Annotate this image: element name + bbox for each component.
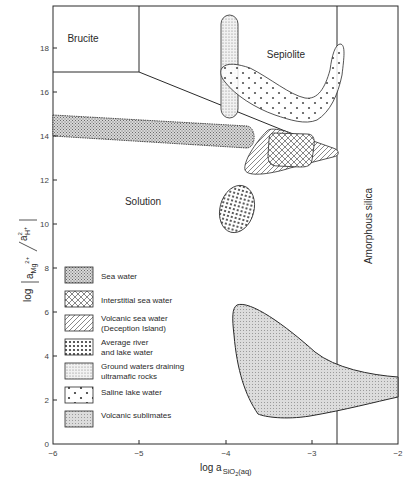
svg-text:Volcanic sublimates: Volcanic sublimates <box>101 411 171 420</box>
sea-water-region <box>53 115 254 148</box>
legend-item-interstitial-sea-water: Interstitial sea water <box>65 291 172 307</box>
interstitial-sea-water-swatch <box>65 291 93 307</box>
y-tick-14: 14 <box>40 132 49 141</box>
x-tick-neg3: −3 <box>307 449 317 458</box>
legend-item-average-river-lake-water: Average river and lake water <box>65 338 153 357</box>
volcanic-sea-water-swatch <box>65 315 93 331</box>
diagram-canvas: Brucite Sepiolite Solution Amorphous sil… <box>0 0 410 477</box>
y-tick-16: 16 <box>40 88 49 97</box>
y-axis-label: log aMg2+ a2H+ <box>17 220 39 302</box>
stability-diagram: Brucite Sepiolite Solution Amorphous sil… <box>0 0 410 477</box>
svg-text:Sea water: Sea water <box>101 272 137 281</box>
legend-item-sea-water: Sea water <box>65 267 137 283</box>
x-tick-neg5: −5 <box>134 449 144 458</box>
svg-text:Average river: Average river <box>101 338 149 347</box>
x-tick-neg6: −6 <box>48 449 58 458</box>
legend-item-volcanic-sea-water: Volcanic sea water (Deception Island) <box>65 314 168 333</box>
ground-waters-ultramafic-swatch <box>65 363 93 379</box>
field-label-amorphous-silica: Amorphous silica <box>363 187 374 264</box>
y-axis-ticks: 0 2 4 6 8 10 12 14 16 18 <box>40 44 57 449</box>
svg-text:Ground waters draining: Ground waters draining <box>101 362 184 371</box>
y-tick-10: 10 <box>40 220 49 229</box>
y-tick-8: 8 <box>45 264 50 273</box>
legend-item-saline-lake-water: Saline lake water <box>65 387 162 403</box>
svg-text:and lake water: and lake water <box>101 348 153 357</box>
y-tick-0: 0 <box>45 440 50 449</box>
y-tick-6: 6 <box>45 308 50 317</box>
svg-text:log: log <box>22 289 33 302</box>
svg-text:aMg2+: aMg2+ <box>24 256 38 279</box>
legend-item-volcanic-sublimates: Volcanic sublimates <box>65 411 171 427</box>
average-river-lake-water-swatch <box>65 339 93 355</box>
average-river-lake-water-region <box>214 181 259 236</box>
volcanic-sublimates-region <box>233 304 398 418</box>
field-label-solution: Solution <box>125 196 161 207</box>
x-axis-ticks: −6 −5 −4 −3 −2 <box>48 440 403 458</box>
y-tick-12: 12 <box>40 176 49 185</box>
x-axis-label: log aSiO2(aq) <box>200 462 252 477</box>
svg-text:Volcanic sea water: Volcanic sea water <box>101 314 168 323</box>
y-tick-4: 4 <box>45 352 50 361</box>
svg-text:Saline lake water: Saline lake water <box>101 388 162 397</box>
svg-text:ultramafic rocks: ultramafic rocks <box>101 372 157 381</box>
y-tick-2: 2 <box>45 396 50 405</box>
field-label-brucite: Brucite <box>67 33 99 44</box>
saline-lake-water-swatch <box>65 387 93 403</box>
y-tick-18: 18 <box>40 44 49 53</box>
legend-item-ground-waters-ultramafic: Ground waters draining ultramafic rocks <box>65 362 184 381</box>
x-tick-neg2: −2 <box>393 449 403 458</box>
sea-water-swatch <box>65 267 93 283</box>
svg-text:(Deception Island): (Deception Island) <box>101 324 166 333</box>
legend: Sea water Interstitial sea water Volcani… <box>65 267 184 427</box>
x-tick-neg4: −4 <box>221 449 231 458</box>
svg-text:Interstitial sea water: Interstitial sea water <box>101 296 172 305</box>
field-label-sepiolite: Sepiolite <box>267 49 306 60</box>
svg-text:a2H+: a2H+ <box>17 227 31 241</box>
volcanic-sublimates-swatch <box>65 411 93 427</box>
interstitial-sea-water-region <box>268 133 314 167</box>
